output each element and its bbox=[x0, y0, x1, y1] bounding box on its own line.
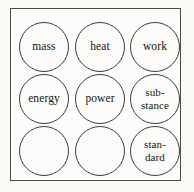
circle-cell-r0c1[interactable]: heat bbox=[75, 22, 125, 72]
circle-grid: mass heat work energy power sub- stance … bbox=[0, 0, 194, 192]
circle-label-heat: heat bbox=[88, 41, 112, 53]
circle-cell-r2c0-empty[interactable] bbox=[19, 126, 69, 176]
circle-label-power: power bbox=[83, 93, 116, 105]
circle-cell-r1c2[interactable]: sub- stance bbox=[130, 74, 180, 124]
circle-cell-r1c1[interactable]: power bbox=[75, 74, 125, 124]
circle-cell-r2c1-empty[interactable] bbox=[75, 126, 125, 176]
circle-cell-r2c2[interactable]: stan- dard bbox=[130, 126, 180, 176]
circle-label-standard: stan- dard bbox=[142, 138, 168, 163]
circle-cell-r1c0[interactable]: energy bbox=[19, 74, 69, 124]
circle-cell-r0c0[interactable]: mass bbox=[19, 22, 69, 72]
diagram-page: mass heat work energy power sub- stance … bbox=[0, 0, 194, 192]
circle-label-mass: mass bbox=[30, 41, 57, 53]
circle-label-substance: sub- stance bbox=[139, 86, 171, 111]
circle-label-work: work bbox=[141, 41, 169, 53]
circle-cell-r0c2[interactable]: work bbox=[130, 22, 180, 72]
circle-label-energy: energy bbox=[26, 93, 62, 105]
